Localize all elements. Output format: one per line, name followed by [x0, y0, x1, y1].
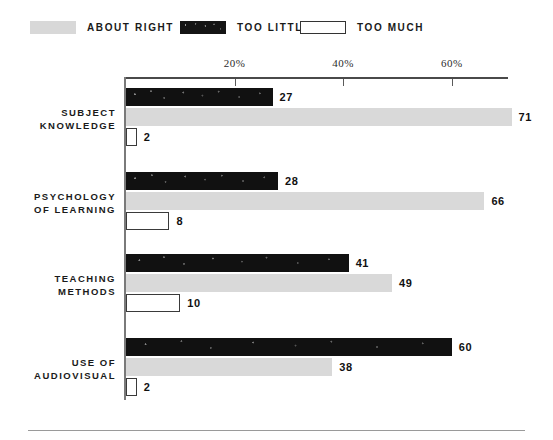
bar-row: 38	[126, 358, 553, 376]
category-label: PSYCHOLOGYOF LEARNING	[0, 190, 116, 216]
category-label-line2: AUDIOVISUAL	[0, 369, 116, 382]
bar-about-right[interactable]	[126, 108, 512, 126]
bar-row: 49	[126, 274, 553, 292]
bar-row: 41	[126, 254, 553, 272]
bar-too-much[interactable]	[126, 128, 137, 146]
bar-value-label: 2	[144, 378, 151, 396]
bar-value-label: 66	[491, 192, 504, 210]
bar-about-right[interactable]	[126, 274, 392, 292]
category-label: SUBJECTKNOWLEDGE	[0, 106, 116, 132]
bar-value-label: 28	[285, 172, 298, 190]
bar-about-right[interactable]	[126, 192, 484, 210]
category-label: USE OFAUDIOVISUAL	[0, 356, 116, 382]
axis-tick-mark	[343, 79, 344, 86]
category-label: TEACHINGMETHODS	[0, 272, 116, 298]
bar-value-label: 49	[399, 274, 412, 292]
category-label-line2: KNOWLEDGE	[0, 119, 116, 132]
bar-group: SUBJECTKNOWLEDGE27712	[0, 88, 553, 154]
bar-row: 66	[126, 192, 553, 210]
axis-tick-mark	[452, 79, 453, 86]
bar-too-much[interactable]	[126, 294, 180, 312]
bar-too-much[interactable]	[126, 212, 169, 230]
bar-row: 27	[126, 88, 553, 106]
bar-value-label: 38	[339, 358, 352, 376]
category-label-line2: OF LEARNING	[0, 203, 116, 216]
bar-value-label: 8	[176, 212, 183, 230]
bar-too-little[interactable]	[126, 338, 452, 356]
bar-value-label: 10	[187, 294, 200, 312]
bar-too-little[interactable]	[126, 88, 273, 106]
bar-group: USE OFAUDIOVISUAL60382	[0, 338, 553, 404]
bar-value-label: 2	[144, 128, 151, 146]
bar-group: PSYCHOLOGYOF LEARNING28668	[0, 172, 553, 238]
axis-tick-label: 60%	[441, 57, 463, 69]
category-label-line1: TEACHING	[0, 272, 116, 285]
bar-row: 10	[126, 294, 553, 312]
bottom-divider	[28, 430, 525, 431]
bar-row: 60	[126, 338, 553, 356]
bar-about-right[interactable]	[126, 358, 332, 376]
bar-value-label: 60	[459, 338, 472, 356]
axis-tick-mark	[235, 79, 236, 86]
bar-group: TEACHINGMETHODS414910	[0, 254, 553, 320]
bar-value-label: 27	[280, 88, 293, 106]
axis-tick-label: 20%	[224, 57, 246, 69]
category-label-line2: METHODS	[0, 285, 116, 298]
bar-value-label: 41	[356, 254, 369, 272]
bar-row: 2	[126, 128, 553, 146]
bar-row: 71	[126, 108, 553, 126]
bar-too-little[interactable]	[126, 172, 278, 190]
bar-row: 2	[126, 378, 553, 396]
category-label-line1: USE OF	[0, 356, 116, 369]
category-label-line1: SUBJECT	[0, 106, 116, 119]
bar-row: 8	[126, 212, 553, 230]
category-label-line1: PSYCHOLOGY	[0, 190, 116, 203]
bar-chart: 20%40%60% SUBJECTKNOWLEDGE27712PSYCHOLOG…	[0, 0, 553, 440]
axis-top-line	[124, 77, 508, 79]
bar-too-little[interactable]	[126, 254, 349, 272]
bar-value-label: 71	[519, 108, 532, 126]
bar-row: 28	[126, 172, 553, 190]
axis-tick-label: 40%	[332, 57, 354, 69]
bar-too-much[interactable]	[126, 378, 137, 396]
